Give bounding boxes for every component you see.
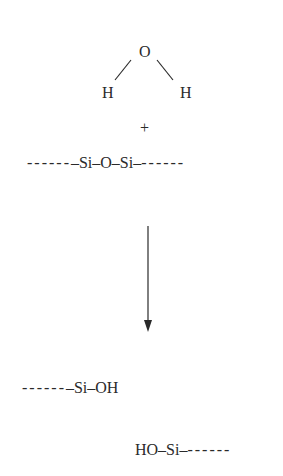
silanol-2-formula: HO–Si– [135,441,187,458]
bond-o-h-left [115,60,131,80]
siloxane-chain: ------–Si–O–Si–------ [27,155,185,171]
siloxane-right-dashes: ------ [141,154,185,171]
reaction-arrow-head-icon [144,320,152,332]
silanol-product-1: ------–Si–OH [22,380,118,396]
water-hydrogen-right: H [180,85,192,101]
plus-sign: + [140,120,149,136]
bond-o-h-right [157,60,173,80]
silanol-product-2: HO–Si–------ [135,442,231,458]
siloxane-left-dashes: ------ [27,154,71,171]
water-oxygen: O [139,44,151,60]
water-hydrogen-left: H [102,85,114,101]
diagram-lines [0,0,283,476]
siloxane-formula: –Si–O–Si– [71,154,141,171]
silanol-1-left-dashes: ------ [22,379,66,396]
silanol-1-formula: –Si–OH [66,379,118,396]
silanol-2-right-dashes: ------ [187,441,231,458]
